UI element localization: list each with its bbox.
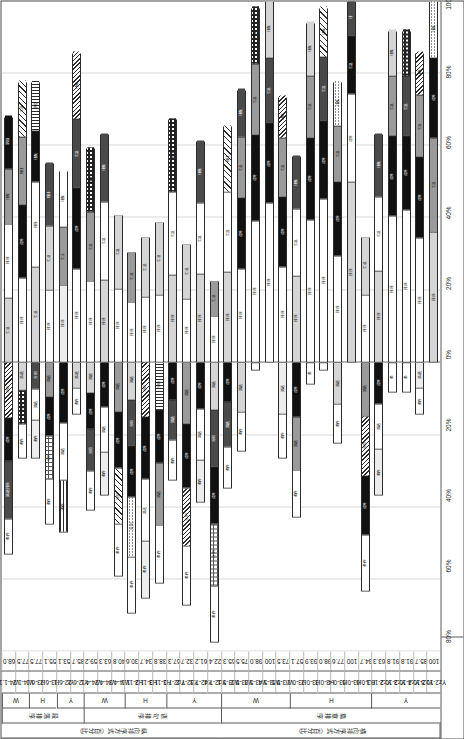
bar-segment: 条: [388, 363, 395, 391]
bar-segment: 筛选: [46, 360, 53, 395]
bar-segment: 筛选: [361, 360, 368, 414]
bar-segment: 条: [306, 363, 313, 383]
bar-right[interactable]: 排序合并汇总计数: [305, 23, 314, 362]
bar-right[interactable]: 排序合并统计汇总: [17, 82, 26, 362]
bar-left[interactable]: 条: [305, 362, 314, 384]
bar-segment: 汇总: [128, 252, 135, 301]
bar-segment: 分列: [18, 390, 25, 424]
bar-left[interactable]: 条: [401, 362, 410, 392]
bar-segment: 汇总: [196, 202, 203, 273]
bar-right[interactable]: 排序汇总: [141, 237, 150, 362]
bar-right[interactable]: 排序合并汇总计数: [237, 90, 246, 363]
bar-right[interactable]: 排序汇总计数: [374, 134, 383, 363]
bar-segment: 汇总: [430, 137, 437, 231]
bar-right[interactable]: 排序合并汇总计数: [250, 8, 259, 362]
bar-left[interactable]: 条件分列合并分组筛选: [127, 362, 136, 612]
bar-left[interactable]: 条件筛选: [72, 362, 81, 414]
bar-segment: [251, 363, 258, 368]
bar-right[interactable]: 排序汇总: [182, 244, 191, 362]
bar-left[interactable]: 条: [387, 362, 396, 392]
bar-left[interactable]: 条件筛选分组: [31, 362, 40, 458]
bar-segment: 分组: [4, 360, 11, 417]
bar-segment: 排序: [87, 280, 94, 362]
bar-segment: 排序: [416, 237, 423, 361]
bar-segment: 汇总: [18, 80, 25, 136]
bar-left[interactable]: 条件筛选合并: [374, 362, 383, 494]
bar-left[interactable]: 条件合并分组筛选: [360, 362, 369, 590]
bar-left[interactable]: 条件筛选合并分组: [141, 362, 150, 598]
bar-left[interactable]: 条件筛选合并: [168, 362, 177, 480]
bar-right[interactable]: 排序合并汇总计: [346, 1, 355, 362]
bar-right[interactable]: 排序汇总: [360, 237, 369, 362]
bar-segment: 分组: [128, 399, 135, 445]
bar-segment: 条件: [238, 411, 245, 450]
bar-row: 条件筛选合并分组排序汇总: [152, 1, 166, 651]
bar-left[interactable]: [319, 362, 328, 369]
bar-segment: 排序: [375, 270, 382, 362]
section-label-1: 语 句 排 序: [83, 708, 220, 723]
bar-right[interactable]: 排序合并汇总计数: [72, 53, 81, 363]
bar-segment: 计数: [334, 80, 341, 125]
bar-right[interactable]: 排序合并汇总计数: [278, 97, 287, 363]
bar-segment: 计数: [4, 168, 11, 223]
bar-right[interactable]: 排序合并汇总计数: [333, 82, 342, 362]
bar-right[interactable]: 汇总排序计数求和: [3, 117, 12, 363]
bar-right[interactable]: 排序汇总: [113, 215, 122, 362]
bar-left[interactable]: 条件分列筛选: [17, 362, 26, 458]
bar-left[interactable]: 条件分列合并筛选: [45, 362, 54, 524]
bar-left[interactable]: 条件筛选合并: [99, 362, 108, 494]
bar-right[interactable]: 排序合并汇总计数: [415, 53, 424, 363]
bar-row: 条件筛选合并排序汇总计数: [289, 1, 303, 651]
axis-tick-label: 0%: [444, 349, 451, 358]
bar-right[interactable]: 排序汇总: [154, 222, 163, 362]
bar-left[interactable]: 条件筛选: [333, 362, 342, 443]
bar-left[interactable]: 条件筛选合并: [223, 362, 232, 487]
bar-left[interactable]: 条件筛选: [415, 362, 424, 414]
bar-left[interactable]: 条件分组合并筛选: [86, 362, 95, 509]
bar-right[interactable]: 排序汇总计数: [195, 141, 204, 362]
bar-right[interactable]: 排序汇总: [127, 252, 136, 363]
bar-left[interactable]: 条件分列合并分组筛选: [209, 362, 218, 642]
bar-right[interactable]: 排序汇总统计: [168, 119, 177, 362]
bar-segment: 条件: [224, 446, 231, 486]
bar-right[interactable]: 汇总排序计数求和: [31, 82, 40, 362]
bar-right[interactable]: 排序汇总计数: [58, 171, 67, 363]
bar-left[interactable]: [250, 362, 259, 369]
bar-row: 条排序合并汇总计数: [303, 1, 317, 651]
bar-row: 条件筛选排序合并汇总计数: [275, 1, 289, 651]
bar-right[interactable]: 排序汇总计数: [99, 134, 108, 363]
bar-segment: 分组: [155, 360, 162, 408]
bar-segment: 合并: [306, 137, 313, 219]
bar-right[interactable]: 排序汇总统计: [45, 163, 54, 362]
bar-left[interactable]: 条件分列合并筛选: [113, 362, 122, 576]
bar-row: 条件分组合并筛选排序汇总统计: [83, 1, 97, 651]
bar-right[interactable]: 排序合并汇总计数: [264, 1, 273, 362]
bar-row: 条件分列筛选排序合并统计汇总: [15, 1, 29, 651]
bar-right[interactable]: 排序汇总统计: [223, 126, 232, 362]
bar-segment: 汇总: [238, 136, 245, 197]
bar-row: 条件筛选合并排序汇总统计: [221, 1, 235, 651]
bar-segment: 排序: [18, 277, 25, 361]
bar-right[interactable]: 排序合并汇总计数: [401, 31, 410, 363]
bar-row: 条件分列合并筛选排序汇总: [179, 1, 193, 651]
bar-left[interactable]: 条件筛选合并: [195, 362, 204, 502]
bar-right[interactable]: 排序汇总计数: [291, 156, 300, 362]
bar-left[interactable]: 条件筛选排序合并分组: [3, 362, 12, 554]
bar-segment: 求和: [4, 115, 11, 169]
bar-left[interactable]: 条件筛选合并分组: [154, 362, 163, 583]
bar-segment: 条件: [100, 451, 107, 494]
bar-left[interactable]: 条件筛选合并: [291, 362, 300, 517]
bar-row: 条件筛选合并排序汇总计数: [97, 1, 111, 651]
bar-left[interactable]: 条件筛选: [237, 362, 246, 450]
bar-right[interactable]: 排序汇总合并计数: [429, 1, 438, 362]
bar-right[interactable]: 排序合并汇总计数: [387, 31, 396, 363]
bar-right[interactable]: 排序汇总统计: [86, 148, 95, 362]
bar-segment: 筛选: [375, 403, 382, 448]
bar-left[interactable]: 条件分列合并筛选: [182, 362, 191, 605]
bar-left[interactable]: 条件筛选: [278, 362, 287, 458]
bar-left[interactable]: 条件筛选合并: [58, 362, 67, 531]
bar-segment: 统计: [87, 147, 94, 211]
bar-right[interactable]: 排序汇总: [209, 281, 218, 362]
bar-segment: 汇总: [416, 94, 423, 157]
bar-right[interactable]: 排序合并汇总计数: [319, 8, 328, 362]
